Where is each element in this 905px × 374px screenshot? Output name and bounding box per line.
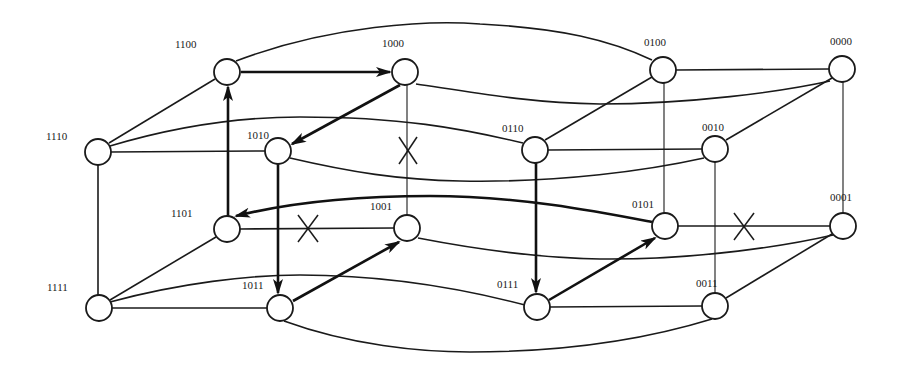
- label-0100: 0100: [644, 36, 667, 48]
- edge-0111-0011: [550, 306, 702, 307]
- edge-1101-1001: [240, 228, 394, 229]
- node-0110: [522, 137, 548, 163]
- routing-path: [228, 72, 655, 301]
- edge-1111-0111: [110, 275, 525, 305]
- node-0010: [702, 136, 728, 162]
- fault-cross-1000-1001: [399, 137, 417, 164]
- node-1110: [85, 139, 111, 165]
- label-1011: 1011: [242, 279, 264, 291]
- edge-1010-0010: [290, 158, 704, 181]
- node-0101: [652, 213, 678, 239]
- label-1110: 1110: [46, 130, 68, 142]
- node-1010: [265, 138, 291, 164]
- node-1011: [267, 295, 293, 321]
- edge-1100-1110: [109, 79, 215, 143]
- node-1101: [214, 216, 240, 242]
- label-0000: 0000: [830, 35, 853, 47]
- node-labels: 1100 1000 0100 0000 1110 1010 0110 0010 …: [46, 35, 853, 293]
- arrow-0101-1101: [236, 196, 652, 222]
- label-1101: 1101: [171, 207, 193, 219]
- edge-1110-1010: [111, 151, 265, 152]
- label-0101: 0101: [632, 198, 654, 210]
- arrow-1000-1010: [292, 85, 400, 144]
- label-0111: 0111: [497, 278, 518, 290]
- node-1000: [392, 59, 418, 85]
- arrow-0111-0101: [549, 238, 655, 300]
- edge-1011-0011: [284, 319, 712, 352]
- node-0011: [702, 293, 728, 319]
- arrow-1011-1001: [293, 242, 399, 301]
- node-0001: [830, 213, 856, 239]
- node-0111: [524, 294, 550, 320]
- label-1010: 1010: [247, 129, 270, 141]
- node-0100: [650, 57, 676, 83]
- edge-1100-0100: [236, 23, 652, 61]
- edge-0001-0011: [726, 234, 832, 298]
- label-0010: 0010: [702, 121, 725, 133]
- edge-0100-0000: [676, 69, 829, 70]
- label-0011: 0011: [696, 277, 718, 289]
- label-1000: 1000: [382, 37, 405, 49]
- node-1100: [214, 59, 240, 85]
- hypercube-diagram: 1100 1000 0100 0000 1110 1010 0110 0010 …: [0, 0, 905, 374]
- label-1001: 1001: [370, 200, 392, 212]
- edge-0000-0010: [726, 78, 832, 140]
- node-1111: [86, 295, 112, 321]
- label-1111: 1111: [47, 281, 68, 293]
- node-1001: [394, 215, 420, 241]
- edge-1101-1111: [110, 237, 216, 300]
- edge-0110-0010: [548, 149, 702, 150]
- edge-0100-0110: [545, 77, 652, 140]
- node-0000: [829, 56, 855, 82]
- label-0001: 0001: [830, 191, 852, 203]
- edges: [98, 23, 843, 352]
- edge-1000-0000: [416, 81, 830, 104]
- label-1100: 1100: [175, 38, 197, 50]
- label-0110: 0110: [502, 122, 524, 134]
